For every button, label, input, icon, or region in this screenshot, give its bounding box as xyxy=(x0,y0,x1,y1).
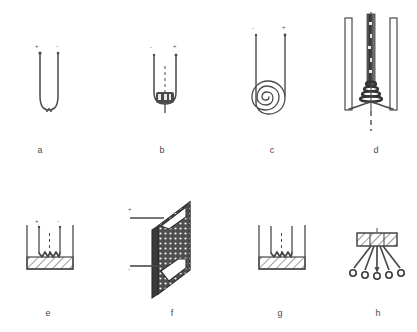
panel-f-terminal-plus: + xyxy=(128,206,132,212)
panel-c-spiral-coil-source: - + xyxy=(248,30,308,130)
electrode-bar-left xyxy=(345,18,352,110)
radiating-line-2 xyxy=(365,246,374,270)
panel-caption-h: h xyxy=(368,308,388,318)
charge-highlight-3 xyxy=(169,94,171,100)
panel-e-drawing xyxy=(22,222,86,284)
panel-a-terminal-minus: - xyxy=(56,43,58,49)
zigzag-filament xyxy=(271,252,292,257)
column-speckle-2 xyxy=(370,34,372,38)
plate-edge-thickness xyxy=(152,226,158,298)
terminal-dot-right xyxy=(284,34,287,37)
panel-b-terminal-minus: - xyxy=(150,44,152,50)
zigzag-filament xyxy=(39,252,60,257)
hatched-block xyxy=(357,233,397,246)
panel-d-drawing xyxy=(338,12,408,137)
emitter-circle-4 xyxy=(386,272,392,278)
emitter-circle-5 xyxy=(398,270,404,276)
column-speckle-4 xyxy=(370,58,372,62)
terminal-dot-right xyxy=(57,52,60,55)
hatched-melt-layer xyxy=(259,257,305,269)
panel-caption-b: b xyxy=(152,145,172,155)
panel-f-drawing xyxy=(128,196,218,302)
panel-caption-e: e xyxy=(38,308,58,318)
terminal-dot-left xyxy=(38,226,40,228)
panel-caption-a: a xyxy=(30,145,50,155)
panel-d-conical-helix-source xyxy=(338,12,408,137)
figure-diagram-evaporation-sources: + - a - + b xyxy=(0,0,417,332)
column-speckle-3 xyxy=(368,46,371,49)
panel-b-basket-source-with-charge: - + xyxy=(143,48,191,128)
emitter-circle-2 xyxy=(362,272,368,278)
panel-caption-g: g xyxy=(270,308,290,318)
panel-b-drawing xyxy=(143,48,191,128)
electrode-bar-right xyxy=(390,18,397,110)
terminal-dot-right xyxy=(59,226,61,228)
terminal-dot-left xyxy=(153,54,155,56)
panel-c-drawing xyxy=(248,30,308,130)
radiating-line-1 xyxy=(354,246,371,268)
panel-caption-c: c xyxy=(262,145,282,155)
emitter-circle-1 xyxy=(350,270,356,276)
panel-h-hatched-block-with-radiating-emitters xyxy=(344,228,410,288)
panel-e-terminal-minus: - xyxy=(57,218,59,224)
panel-b-terminal-plus: + xyxy=(173,43,177,49)
charge-highlight-2 xyxy=(164,94,167,100)
emitter-circle-3 xyxy=(374,273,380,279)
terminal-dot-left xyxy=(38,51,41,54)
panel-h-drawing xyxy=(344,228,410,288)
u-bend-wire xyxy=(40,54,58,110)
panel-a-terminal-plus: + xyxy=(35,43,39,49)
terminal-dot-right xyxy=(175,54,178,57)
panel-caption-f: f xyxy=(162,308,182,318)
panel-caption-d: d xyxy=(366,145,386,155)
radiating-line-5 xyxy=(383,246,400,268)
panel-c-terminal-plus: + xyxy=(282,24,286,30)
panel-g-crucible-with-zigzag-heater-unmarked xyxy=(254,222,318,284)
column-speckle-5 xyxy=(369,70,372,73)
charge-highlight-1 xyxy=(158,94,161,100)
panel-e-terminal-plus: + xyxy=(35,218,39,224)
radiating-line-4 xyxy=(380,246,389,270)
panel-e-crucible-with-zigzag-heater: + - xyxy=(22,222,86,284)
panel-a-hairpin-wire-source: + - xyxy=(28,48,72,120)
panel-a-drawing xyxy=(28,48,72,120)
panel-g-drawing xyxy=(254,222,318,284)
panel-f-terminal-minus: - xyxy=(128,266,130,272)
spiral-coil xyxy=(252,81,285,114)
column-speckle-1 xyxy=(369,22,372,25)
hatched-melt-layer xyxy=(27,257,73,269)
terminal-dot-left xyxy=(255,34,257,36)
panel-c-terminal-minus: - xyxy=(252,25,254,31)
panel-f-perforated-plate-source: + - xyxy=(128,196,218,302)
